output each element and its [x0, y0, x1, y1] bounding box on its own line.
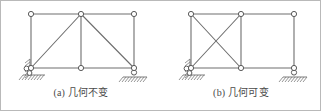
panel-b-diagram — [161, 1, 321, 87]
members-group — [191, 14, 294, 68]
node-bottom-middle — [238, 65, 243, 70]
roller-lower-pin-support-left — [187, 71, 192, 76]
panel-a-caption: (a) 几何不变 — [1, 87, 161, 99]
node-bottom-left — [28, 65, 33, 70]
panel-b-caption: (b) 几何可变 — [161, 87, 321, 99]
node-top-right — [291, 11, 296, 16]
node-bottom-right — [291, 65, 296, 70]
truss-comparison-figure: (a) 几何不变 (b) 几何可变 — [0, 0, 321, 111]
panel-b-unstable-truss: (b) 几何可变 — [161, 1, 321, 111]
node-top-left — [28, 11, 33, 16]
nodes-group — [28, 11, 136, 70]
supports-group — [179, 59, 307, 82]
members-group — [31, 14, 134, 68]
panel-a-diagram — [1, 1, 161, 87]
panel-a-stable-truss: (a) 几何不变 — [1, 1, 161, 111]
node-bottom-middle — [78, 65, 83, 70]
nodes-group — [188, 11, 296, 70]
member-diagonal-right — [81, 14, 134, 68]
node-bottom-left — [188, 65, 193, 70]
node-bottom-right — [131, 65, 136, 70]
node-top-middle — [238, 11, 243, 16]
member-diagonal-left — [31, 14, 81, 68]
node-top-middle — [78, 11, 83, 16]
roller-lower-pin-support-left — [27, 71, 32, 76]
node-top-right — [131, 11, 136, 16]
node-top-left — [188, 11, 193, 16]
